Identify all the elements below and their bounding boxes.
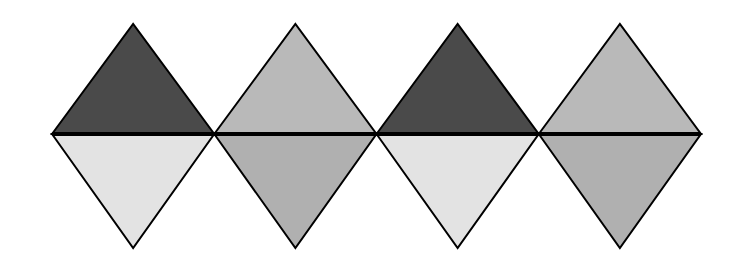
diamond-strip-diagram <box>0 0 738 274</box>
diamond-bottom-triangle <box>214 134 376 248</box>
diamond-strip-svg <box>0 0 738 274</box>
diamond-bottom-triangle <box>539 134 701 248</box>
diamond-top-triangle <box>214 24 376 134</box>
diamond-bottom-triangle <box>377 134 539 248</box>
diamond-bottom-triangle <box>52 134 214 248</box>
diamond-top-triangle <box>539 24 701 134</box>
diamond-top-triangle <box>52 24 214 134</box>
diamond-top-triangle <box>377 24 539 134</box>
